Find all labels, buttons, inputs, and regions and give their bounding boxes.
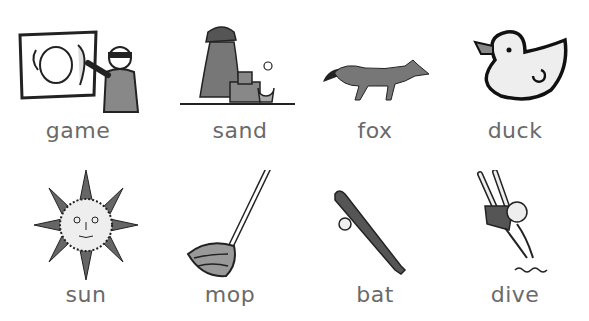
word-card-fox: fox xyxy=(305,10,445,160)
baseball-bat-icon xyxy=(305,170,445,280)
word-label: game xyxy=(8,118,148,143)
word-label: sand xyxy=(170,118,310,143)
diver-icon xyxy=(445,170,585,280)
word-card-mop: mop xyxy=(160,170,300,320)
mop-icon xyxy=(160,170,300,280)
word-label: fox xyxy=(305,118,445,143)
word-card-bat: bat xyxy=(305,170,445,320)
word-label: duck xyxy=(445,118,585,143)
word-card-duck: duck xyxy=(445,10,585,160)
word-label: bat xyxy=(305,282,445,307)
word-card-game: game xyxy=(8,10,148,160)
sandcastle-icon xyxy=(170,10,310,120)
fox-icon xyxy=(305,10,445,120)
word-label: dive xyxy=(445,282,585,307)
word-card-sand: sand xyxy=(170,10,310,160)
word-label: sun xyxy=(16,282,156,307)
word-card-dive: dive xyxy=(445,170,585,320)
sun-face-icon xyxy=(16,170,156,280)
word-card-sun: sun xyxy=(16,170,156,320)
word-label: mop xyxy=(160,282,300,307)
pin-the-tail-game-icon xyxy=(8,10,148,120)
rubber-duck-icon xyxy=(445,10,585,120)
